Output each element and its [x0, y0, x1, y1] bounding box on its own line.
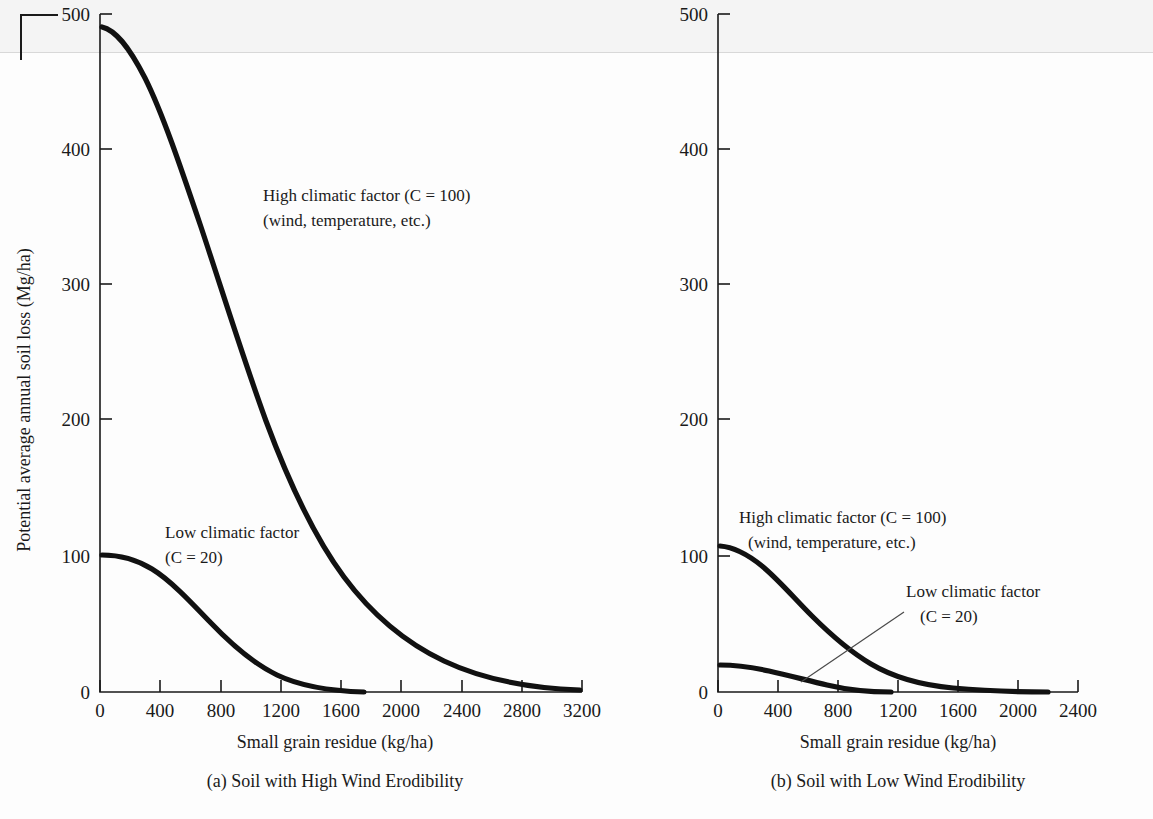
- panel-b-x-tick-label-2400: 2400: [1059, 700, 1097, 721]
- panel-b-y-tick-label-200: 200: [680, 409, 709, 430]
- panel-b-x-tick-label-2000: 2000: [999, 700, 1037, 721]
- panel-b-x-tick-label-1600: 1600: [939, 700, 977, 721]
- x-tick-label-2000: 2000: [382, 700, 420, 721]
- y-tick-label-0: 0: [81, 682, 91, 703]
- x-tick-label-2400: 2400: [443, 700, 481, 721]
- x-tick-label-1200: 1200: [262, 700, 300, 721]
- panel-a-annotation-high-line2: (wind, temperature, etc.): [263, 211, 431, 230]
- panel-a-curve-high-climatic: [102, 27, 580, 690]
- x-tick-label-0: 0: [95, 700, 105, 721]
- panel-b-annotation-low-line1: Low climatic factor: [906, 582, 1040, 601]
- panel-b-y-tick-label-400: 400: [680, 139, 709, 160]
- panel-a-x-axis-title: Small grain residue (kg/ha): [237, 732, 433, 753]
- panel-b-x-axis-title: Small grain residue (kg/ha): [800, 732, 996, 753]
- y-tick-label-400: 400: [62, 139, 91, 160]
- x-tick-label-2800: 2800: [503, 700, 541, 721]
- figure-page: Potential average annual soil loss (Mg/h…: [0, 0, 1153, 819]
- panel-b-annotation-high-line1: High climatic factor (C = 100): [739, 508, 946, 527]
- panel-b-y-tick-label-100: 100: [680, 546, 709, 567]
- panel-a-annotation-low-line2: (C = 20): [165, 548, 223, 567]
- panel-a-plot: Potential average annual soil loss (Mg/h…: [0, 0, 620, 819]
- panel-a-curve-low-climatic: [102, 555, 364, 692]
- x-tick-label-1600: 1600: [322, 700, 360, 721]
- panel-b-annotation-low-line2: (C = 20): [920, 607, 978, 626]
- x-tick-label-800: 800: [207, 700, 236, 721]
- panel-a-annotation-low-line1: Low climatic factor: [165, 523, 299, 542]
- panel-b-x-tick-label-1200: 1200: [879, 700, 917, 721]
- panel-b-caption: (b) Soil with Low Wind Erodibility: [771, 771, 1025, 792]
- y-tick-label-500: 500: [62, 4, 91, 25]
- y-tick-label-200: 200: [62, 409, 91, 430]
- panel-b-y-tick-label-0: 0: [699, 682, 709, 703]
- panel-b-annotation-high-line2: (wind, temperature, etc.): [748, 533, 916, 552]
- panel-a-annotation-high-line1: High climatic factor (C = 100): [263, 186, 470, 205]
- panel-b-y-tick-label-500: 500: [680, 4, 709, 25]
- y-tick-label-300: 300: [62, 274, 91, 295]
- panel-b-plot: 500 400 300 200 100 0 0 400 800 1200 160…: [593, 0, 1153, 819]
- panel-b-y-tick-label-300: 300: [680, 274, 709, 295]
- panel-b-x-tick-label-0: 0: [713, 700, 723, 721]
- y-tick-label-100: 100: [62, 546, 91, 567]
- panel-a-axis-lines: [100, 14, 582, 692]
- x-tick-label-400: 400: [146, 700, 175, 721]
- panel-b-x-tick-label-800: 800: [824, 700, 853, 721]
- y-axis-title: Potential average annual soil loss (Mg/h…: [14, 248, 35, 551]
- panel-a-caption: (a) Soil with High Wind Erodibility: [207, 771, 463, 792]
- panel-b-x-tick-label-400: 400: [764, 700, 793, 721]
